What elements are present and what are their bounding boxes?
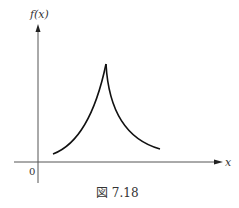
figure-caption: 図 7.18 xyxy=(96,183,139,200)
curve-left-branch xyxy=(53,64,106,154)
x-axis-arrow-icon xyxy=(214,160,223,165)
origin-label: 0 xyxy=(29,166,35,177)
curve-right-branch xyxy=(106,64,160,149)
x-axis-label: x xyxy=(225,156,231,169)
y-axis-arrow-icon xyxy=(36,24,41,32)
y-axis-label: f(x) xyxy=(30,8,49,21)
figure-canvas xyxy=(0,0,239,208)
